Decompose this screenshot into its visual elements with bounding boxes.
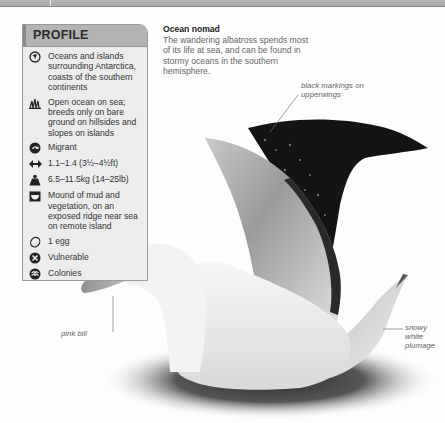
profile-item-nest: Mound of mud and vegetation, on an expos… — [23, 190, 147, 232]
profile-item-wingspan: 1.1–1.4 (3½–4½ft) — [23, 158, 147, 170]
annotation-snowy-plumage: snowy white plumage — [405, 323, 445, 351]
profile-item-range: Oceans and islands surrounding Antarctic… — [23, 51, 147, 93]
profile-item-migration: Migrant — [23, 142, 147, 154]
profile-title: PROFILE — [33, 28, 89, 42]
social-group-icon — [28, 268, 42, 280]
profile-item-weight: 6.5–11.5kg (14–25lb) — [23, 174, 147, 186]
egg-icon — [28, 236, 42, 248]
weight-icon — [28, 174, 42, 186]
profile-item-social: Colonies — [23, 268, 147, 280]
grass-habitat-icon — [28, 97, 42, 109]
globe-icon — [28, 51, 42, 63]
caption: Ocean nomad The wandering albatross spen… — [163, 24, 311, 77]
nest-icon — [28, 190, 42, 202]
caption-body: The wandering albatross spends most of i… — [163, 35, 311, 77]
annotation-black-markings: black markings on upperwings — [301, 81, 371, 99]
migration-icon — [28, 142, 42, 154]
caption-title: Ocean nomad — [163, 24, 311, 34]
profile-list: Oceans and islands surrounding Antarctic… — [23, 47, 147, 280]
conservation-status-icon — [28, 252, 42, 264]
profile-item-status: Vulnerable — [23, 252, 147, 264]
profile-box: PROFILE Oceans and islands surrounding A… — [22, 24, 148, 281]
profile-header: PROFILE — [23, 25, 147, 47]
profile-item-habitat: Open ocean on sea; breeds only on bare g… — [23, 97, 147, 139]
profile-item-eggs: 1 egg — [23, 236, 147, 248]
wingspan-icon — [28, 158, 42, 170]
annotation-pink-bill: pink bill — [61, 329, 87, 338]
